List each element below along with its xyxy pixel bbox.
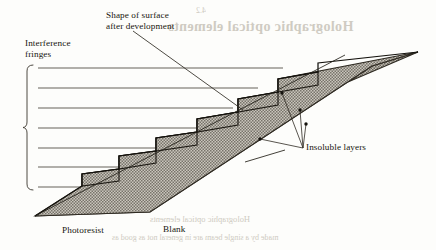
insoluble-dot-3 bbox=[304, 122, 307, 125]
insoluble-dot-4 bbox=[258, 137, 261, 140]
fringe-bracket bbox=[23, 65, 33, 190]
ghost-bleed-region bbox=[150, 2, 390, 36]
insoluble-dot-1 bbox=[280, 91, 283, 94]
label-interference-fringes: Interference fringes bbox=[25, 38, 71, 60]
wedge-edge-tick bbox=[245, 150, 285, 162]
insoluble-leader-4 bbox=[260, 139, 303, 148]
label-photoresist: Photoresist bbox=[62, 225, 104, 236]
shape-of-surface-leader bbox=[133, 31, 243, 110]
label-blank: Blank bbox=[163, 224, 185, 235]
label-insoluble-layers: Insoluble layers bbox=[306, 142, 366, 153]
label-shape-of-surface: Shape of surface after development bbox=[106, 10, 174, 32]
insoluble-dot-2 bbox=[298, 108, 301, 111]
